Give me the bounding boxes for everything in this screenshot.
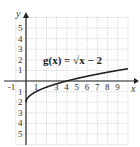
x-tick-label: 9 [115, 82, 120, 92]
x-tick-label: 5 [75, 82, 80, 92]
x-tick-label: 4 [64, 82, 69, 92]
x-axis-label: x [130, 83, 136, 94]
x-tick-label: 8 [105, 82, 110, 92]
equation-label: g(x) = √x − 2 [43, 54, 102, 67]
y-tick-label: 4 [18, 118, 23, 128]
y-tick-label: 2 [18, 97, 23, 107]
y-tick-label: 5 [18, 23, 23, 33]
y-tick-label: 1 [18, 87, 23, 97]
y-tick-label: 4 [18, 34, 23, 44]
x-tick-label: -1 [8, 82, 16, 92]
x-tick-label: 6 [85, 82, 90, 92]
y-tick-label: 2 [18, 55, 23, 65]
y-axis-arrow-icon [23, 12, 29, 18]
y-tick-label: 3 [18, 44, 23, 54]
y-axis-label: y [15, 8, 21, 19]
y-tick-label: 1 [18, 65, 23, 75]
x-tick-label: 7 [95, 82, 100, 92]
y-tick-label: 5 [18, 129, 23, 139]
y-tick-label: 3 [18, 108, 23, 118]
axes [4, 12, 139, 145]
function-graph: -1134567895432112345 x y g(x) = √x − 2 [0, 0, 140, 147]
